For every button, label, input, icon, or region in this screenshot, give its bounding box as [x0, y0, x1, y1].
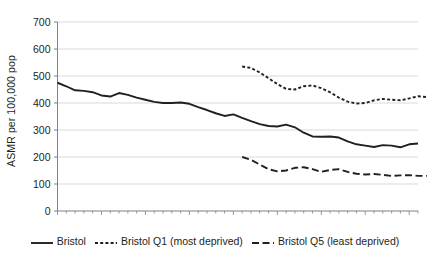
x-axis-ticks	[58, 211, 419, 215]
y-axis-tick-label: 300	[33, 124, 51, 136]
y-axis-tick-label: 100	[33, 178, 51, 190]
y-axis-tick-labels: 0100200300400500600700	[33, 16, 51, 217]
chart-container: ASMR per 100,000 pop 0100200300400500600…	[0, 0, 430, 260]
series-line	[58, 83, 419, 148]
legend-item: Bristol	[31, 236, 86, 247]
series-line	[242, 157, 427, 176]
legend-line-swatch	[95, 237, 117, 245]
y-axis-tick-label: 0	[45, 205, 51, 217]
chart-legend: BristolBristol Q1 (most deprived)Bristol…	[0, 228, 430, 254]
legend-item: Bristol Q1 (most deprived)	[95, 236, 243, 247]
axis-lines	[54, 22, 418, 211]
y-axis-tick-label: 200	[33, 151, 51, 163]
series-lines	[58, 67, 427, 176]
legend-label: Bristol Q5 (least deprived)	[278, 236, 399, 247]
legend-line-swatch	[31, 237, 53, 245]
legend-line-swatch	[252, 237, 274, 245]
line-chart-plot: 0100200300400500600700	[0, 0, 430, 230]
legend-label: Bristol Q1 (most deprived)	[121, 236, 243, 247]
series-line	[242, 67, 427, 104]
legend-label: Bristol	[57, 236, 86, 247]
y-axis-tick-label: 700	[33, 16, 51, 28]
legend-item: Bristol Q5 (least deprived)	[252, 236, 399, 247]
y-axis-tick-label: 600	[33, 43, 51, 55]
y-axis-tick-label: 500	[33, 70, 51, 82]
y-axis-tick-label: 400	[33, 97, 51, 109]
